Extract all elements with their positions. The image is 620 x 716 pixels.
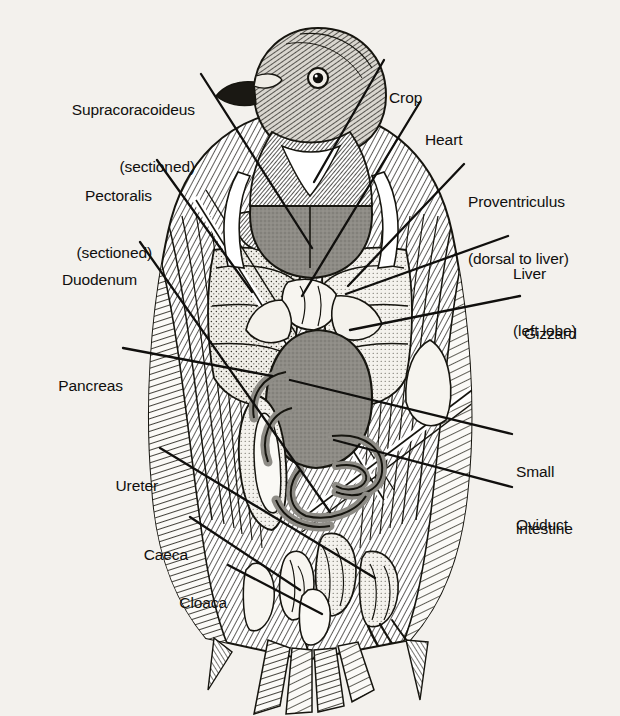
- label-liver-line1: Liver: [513, 264, 577, 283]
- label-crop: Crop: [389, 50, 422, 145]
- label-crop-line1: Crop: [389, 88, 422, 107]
- label-oviduct: Oviduct: [516, 477, 568, 572]
- label-pancreas: Pancreas: [0, 338, 123, 433]
- label-gizzard-line1: Gizzard: [524, 324, 577, 343]
- label-cloaca-line1: Cloaca: [27, 593, 227, 612]
- label-pancreas-line1: Pancreas: [0, 376, 123, 395]
- label-duodenum-line1: Duodenum: [0, 270, 137, 289]
- label-oviduct-line1: Oviduct: [516, 515, 568, 534]
- label-duodenum: Duodenum: [0, 232, 137, 327]
- label-heart-line1: Heart: [425, 130, 462, 149]
- label-heart: Heart: [425, 92, 462, 187]
- label-pectoralis-line1: Pectoralis: [0, 186, 152, 205]
- label-ureter-line1: Ureter: [0, 476, 158, 495]
- label-cloaca: Cloaca: [27, 555, 227, 650]
- label-supracoracoideus-line1: Supracoracoideus: [0, 100, 195, 119]
- label-proventriculus-line1: Proventriculus: [468, 192, 569, 211]
- label-gizzard: Gizzard: [524, 286, 577, 381]
- pupil: [313, 73, 323, 83]
